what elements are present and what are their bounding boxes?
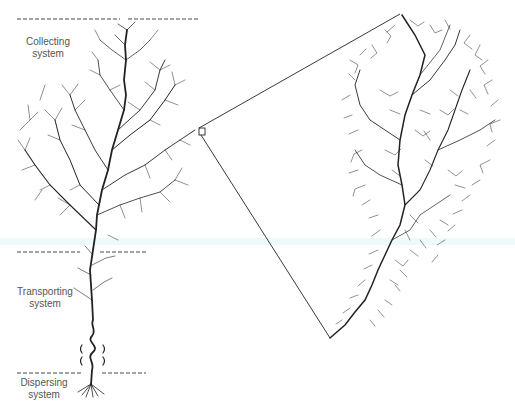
magnified-network <box>330 15 500 338</box>
connector-bottom <box>201 135 330 338</box>
left-tree <box>18 22 195 397</box>
section-dividers <box>17 19 200 373</box>
connector-top <box>199 14 400 128</box>
zoom-box <box>199 128 205 135</box>
branching-network-diagram <box>0 0 515 402</box>
